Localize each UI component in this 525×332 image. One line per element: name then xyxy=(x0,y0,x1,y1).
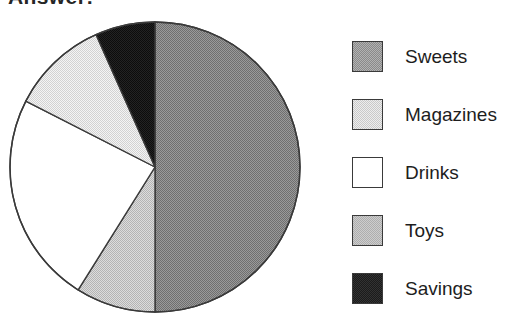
legend-swatch-icon-drinks xyxy=(352,157,383,188)
pie-slice-group xyxy=(10,22,300,312)
legend-item-toys[interactable]: Toys xyxy=(352,201,525,259)
chart-legend: SweetsMagazinesDrinksToysSavings xyxy=(352,27,525,317)
legend-label: Sweets xyxy=(405,47,467,66)
legend-swatch-icon-sweets xyxy=(352,41,383,72)
legend-label: Magazines xyxy=(405,105,497,124)
legend-swatch-icon-savings xyxy=(352,273,383,304)
pie-chart-figure xyxy=(0,0,340,332)
legend-label: Toys xyxy=(405,221,444,240)
pie-slice-sweets[interactable] xyxy=(155,22,300,312)
legend-item-magazines[interactable]: Magazines xyxy=(352,85,525,143)
legend-label: Savings xyxy=(405,279,473,298)
legend-swatch-icon-toys xyxy=(352,215,383,246)
legend-label: Drinks xyxy=(405,163,459,182)
legend-item-drinks[interactable]: Drinks xyxy=(352,143,525,201)
legend-item-sweets[interactable]: Sweets xyxy=(352,27,525,85)
pie-chart-svg xyxy=(0,0,340,332)
legend-item-savings[interactable]: Savings xyxy=(352,259,525,317)
legend-swatch-icon-magazines xyxy=(352,99,383,130)
